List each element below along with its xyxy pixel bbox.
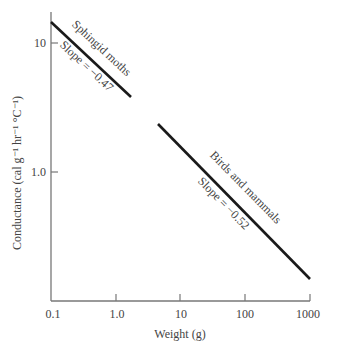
y-tick-label-1: 1.0 bbox=[31, 165, 46, 179]
chart: 10 1.0 0.1 1.0 10 100 1000 Weight (g) Co… bbox=[0, 0, 342, 353]
series-line-birds-mammals bbox=[158, 124, 310, 279]
x-axis-title: Weight (g) bbox=[154, 327, 205, 341]
x-tick-label-100: 100 bbox=[236, 307, 254, 321]
x-tick-label-1: 1.0 bbox=[110, 307, 125, 321]
y-axis-title: Conductance (cal g⁻¹ hr⁻¹ °C⁻¹) bbox=[10, 96, 24, 250]
x-tick-label-1000: 1000 bbox=[296, 307, 320, 321]
x-tick-label-10: 10 bbox=[175, 307, 187, 321]
y-tick-label-10: 10 bbox=[34, 36, 46, 50]
x-tick-label-0.1: 0.1 bbox=[46, 307, 61, 321]
